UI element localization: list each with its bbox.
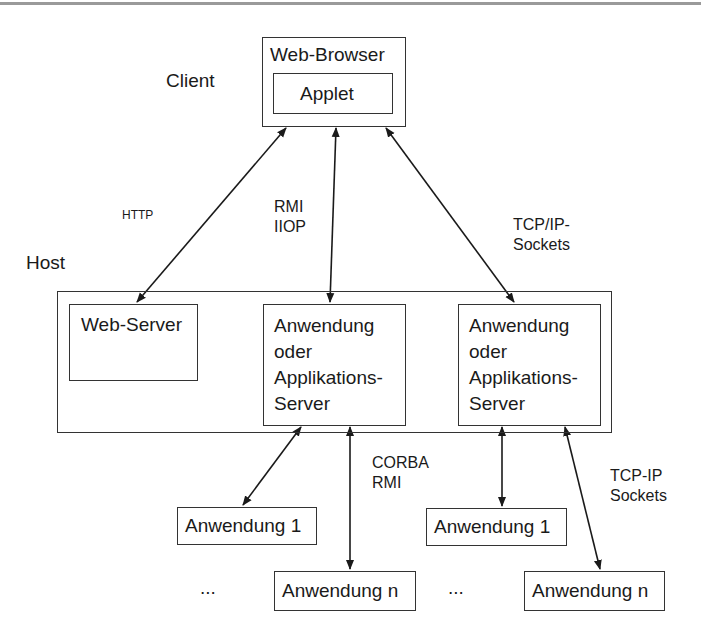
tcp-ip-sockets-arrow xyxy=(565,427,600,569)
app-server-right-label: Anwendung oder Applikations- Server xyxy=(469,313,578,417)
right-app-n-label: Anwendung n xyxy=(532,579,648,602)
corba-rmi-label: CORBA RMI xyxy=(372,453,429,493)
app-server-right-box[interactable]: Anwendung oder Applikations- Server xyxy=(458,304,601,426)
client-zone-label: Client xyxy=(166,69,215,92)
right-app-1-label: Anwendung 1 xyxy=(434,515,550,538)
right-app-n-box[interactable]: Anwendung n xyxy=(524,571,665,611)
left-app1-arrow xyxy=(243,427,301,505)
right-ellipsis: ... xyxy=(448,576,464,599)
app-server-left-box[interactable]: Anwendung oder Applikations- Server xyxy=(263,304,406,426)
tcpip-sockets-top-label: TCP/IP- Sockets xyxy=(513,215,570,255)
web-server-label: Web-Server xyxy=(81,313,182,336)
left-app-1-box[interactable]: Anwendung 1 xyxy=(177,507,317,545)
right-app-1-box[interactable]: Anwendung 1 xyxy=(426,508,567,546)
http-label: HTTP xyxy=(122,208,153,222)
rmi-iiop-label: RMI IIOP xyxy=(274,197,306,237)
tcp-ip-sockets-bottom-label: TCP-IP Sockets xyxy=(610,466,667,506)
rmi-iiop-arrow xyxy=(330,128,336,302)
left-app-n-box[interactable]: Anwendung n xyxy=(274,571,416,611)
tcpip-sockets-arrow xyxy=(386,128,514,302)
http-arrow xyxy=(137,128,286,302)
web-browser-label: Web-Browser xyxy=(270,43,385,66)
host-zone-label: Host xyxy=(26,251,65,274)
web-server-box[interactable]: Web-Server xyxy=(69,304,198,381)
left-app-1-label: Anwendung 1 xyxy=(185,514,301,537)
app-server-left-label: Anwendung oder Applikations- Server xyxy=(274,313,383,417)
left-app-n-label: Anwendung n xyxy=(282,579,398,602)
applet-label: Applet xyxy=(300,82,354,105)
left-ellipsis: ... xyxy=(200,576,216,599)
applet-box[interactable]: Applet xyxy=(273,73,393,114)
